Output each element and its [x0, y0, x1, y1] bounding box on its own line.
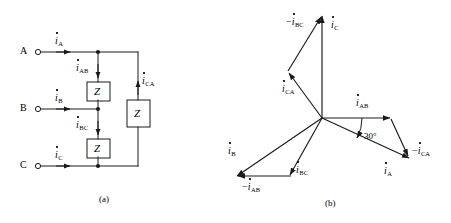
phasor-label-minus-iab: −iAB: [242, 182, 260, 192]
circuit-svg: [0, 0, 226, 223]
current-label-ic: iC: [55, 150, 63, 160]
phasor-label-ia: iA: [384, 166, 392, 176]
terminal-label-b: B: [20, 102, 27, 113]
current-label-ib: iB: [55, 93, 63, 103]
angle-label-30: 30°: [364, 131, 377, 141]
phasor-label-ic: iC: [331, 20, 339, 30]
current-label-ibc: iBC: [76, 120, 88, 130]
caption-subfigure-b: (b): [325, 198, 336, 208]
terminal-label-a: A: [20, 45, 27, 56]
node-a: [96, 50, 100, 54]
figure-root: A B C Z Z Z iA iB iC iAB iBC iCA: [0, 0, 451, 223]
terminal-a: [35, 49, 40, 54]
current-label-ia: iA: [55, 36, 63, 46]
impedance-label-bc: Z: [94, 142, 100, 154]
vector-ica: [289, 73, 322, 118]
node-c: [96, 164, 100, 168]
terminal-b: [35, 106, 40, 111]
terminal-label-c: C: [20, 159, 27, 170]
phasor-label-minus-ibc: −iBC: [286, 17, 304, 27]
circuit-diagram: A B C Z Z Z iA iB iC iAB iBC iCA: [0, 0, 226, 223]
caption-subfigure-a: (a): [99, 194, 109, 204]
current-label-ica: iCA: [142, 76, 155, 86]
phasor-label-ica: iCA: [282, 84, 295, 94]
impedance-label-ab: Z: [94, 85, 100, 97]
phasor-label-ibc: iBC: [296, 165, 308, 175]
phasor-label-minus-ica: −iCA: [412, 146, 430, 156]
phasor-diagram: iC −iBC iCA iAB −iCA iA iB iBC −iAB 30°: [226, 0, 451, 223]
phasor-label-iab: iAB: [356, 98, 369, 108]
node-b: [96, 107, 100, 111]
vector-ib: [237, 118, 322, 176]
impedance-label-ca: Z: [134, 107, 140, 119]
phasor-label-ib: iB: [228, 146, 236, 156]
terminal-c: [35, 163, 40, 168]
current-label-iab: iAB: [76, 63, 89, 73]
